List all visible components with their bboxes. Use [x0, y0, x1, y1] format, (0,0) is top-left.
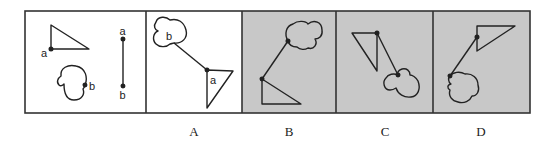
point-a-dot [49, 47, 53, 51]
point-b-dot [83, 83, 87, 87]
option-a-label-a: a [210, 74, 217, 86]
option-c-panel[interactable] [336, 11, 433, 113]
option-a-label[interactable]: A [174, 124, 214, 140]
option-c-dot-cloud [396, 73, 400, 77]
option-d-label[interactable]: D [461, 124, 501, 140]
option-a-panel[interactable] [146, 11, 242, 113]
option-a-label-b: b [166, 30, 172, 42]
option-b-dot-cloud [286, 39, 290, 43]
question-panel [25, 11, 146, 113]
option-b-label[interactable]: B [269, 124, 309, 140]
option-d-dot-triangle [475, 35, 479, 39]
line-end-b-dot [121, 84, 125, 88]
label-a: a [41, 47, 48, 59]
line-label-a: a [120, 25, 127, 37]
option-c-label[interactable]: C [365, 124, 405, 140]
option-c-dot-triangle [375, 31, 379, 35]
line-end-a-dot [121, 37, 125, 41]
line-label-b: b [120, 89, 126, 101]
option-d-dot-cloud [448, 74, 452, 78]
label-b: b [89, 80, 95, 92]
